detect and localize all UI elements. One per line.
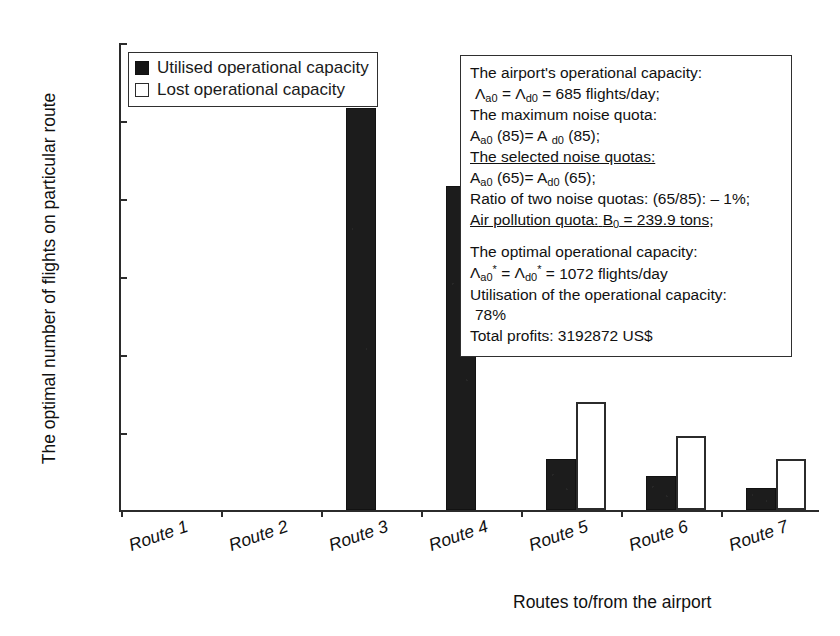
max-noise-quota-a: (85): [497, 127, 525, 144]
legend-label-lost: Lost operational capacity: [157, 80, 345, 100]
info-line-max-noise-quota-value: Aa0 (85)= A d0 (85);: [470, 126, 782, 147]
info-line-air-pollution: Air pollution quota: B0 = 239.9 tons;: [470, 210, 782, 231]
lambda-a0-symbol: Λa0: [475, 85, 498, 102]
info-box: The airport's operational capacity: Λa0 …: [460, 55, 792, 357]
selected-noise-quota-a: (65): [497, 169, 525, 186]
legend-swatch-filled-icon: [135, 61, 149, 75]
A-a0-symbol-2: Aa0: [470, 169, 493, 186]
selected-noise-quota-d: (65): [564, 169, 592, 186]
x-tick-label: Route 2: [226, 516, 291, 556]
legend-item-lost: Lost operational capacity: [135, 79, 369, 101]
lambda-d0-star-symbol: Λd0*: [515, 264, 542, 281]
info-line-utilisation-label: Utilisation of the operational capacity:: [470, 285, 782, 306]
x-tick-mark: [121, 510, 123, 517]
bar-utilised: [346, 108, 376, 510]
max-noise-quota-d: (85): [568, 127, 596, 144]
bar-lost: [676, 436, 706, 510]
info-line-ratio: Ratio of two noise quotas: (65/85): – 1%…: [470, 189, 782, 210]
lambda-a0-star-symbol: Λa0*: [470, 264, 497, 281]
x-tick-mark: [421, 510, 423, 517]
x-tick-mark: [321, 510, 323, 517]
info-line-selected-noise-quotas-value: Aa0 (65)= Ad0 (65);: [470, 168, 782, 189]
A-d0-symbol-2: Ad0: [537, 169, 560, 186]
bar-group: [221, 44, 321, 510]
bar-lost: [576, 402, 606, 510]
bar-group: [321, 44, 421, 510]
x-tick-label: Route 3: [326, 516, 391, 556]
info-line-operational-capacity-value: Λa0 = Λd0 = 685 flights/day;: [470, 84, 782, 105]
air-pollution-label: Air pollution quota:: [470, 211, 598, 228]
bar-utilised: [746, 488, 776, 510]
y-axis-title: The optimal number of flights on particu…: [39, 44, 60, 514]
bar-utilised: [646, 476, 676, 510]
info-line-max-noise-quota-label: The maximum noise quota:: [470, 105, 782, 126]
x-axis-title: Routes to/from the airport: [513, 592, 711, 613]
info-line-optimal-capacity-label: The optimal operational capacity:: [470, 242, 782, 263]
legend-label-utilised: Utilised operational capacity: [157, 58, 369, 78]
air-pollution-value: 239.9 tons;: [637, 211, 714, 228]
A-a0-symbol: Aa0: [470, 127, 493, 144]
x-tick-mark: [621, 510, 623, 517]
operational-capacity-value: 685 flights/day;: [556, 85, 660, 102]
x-tick-label: Route 7: [726, 516, 791, 556]
info-line-total-profits: Total profits: 3192872 US$: [470, 326, 782, 347]
x-tick-mark: [521, 510, 523, 517]
x-tick-label: Route 5: [526, 516, 591, 556]
info-line-optimal-capacity-value: Λa0* = Λd0* = 1072 flights/day: [470, 263, 782, 285]
B0-symbol: B0: [603, 211, 619, 228]
x-tick-mark: [221, 510, 223, 517]
optimal-capacity-value: 1072 flights/day: [559, 264, 668, 281]
A-d0-symbol: A d0: [537, 127, 564, 144]
legend-swatch-hollow-icon: [135, 83, 149, 97]
bar-chart: The optimal number of flights on particu…: [0, 0, 840, 636]
info-spacer: [470, 231, 782, 242]
bar-lost: [776, 459, 806, 510]
info-line-selected-noise-quotas-label: The selected noise quotas:: [470, 147, 782, 168]
x-tick-mark: [721, 510, 723, 517]
lambda-d0-symbol: Λd0: [515, 85, 538, 102]
x-tick-label: Route 1: [126, 516, 191, 556]
legend: Utilised operational capacity Lost opera…: [128, 52, 378, 107]
x-tick-label: Route 6: [626, 516, 691, 556]
info-line-operational-capacity-label: The airport's operational capacity:: [470, 63, 782, 84]
bar-group: [121, 44, 221, 510]
info-line-utilisation-value: 78%: [470, 305, 782, 326]
bar-utilised: [546, 459, 576, 510]
legend-item-utilised: Utilised operational capacity: [135, 57, 369, 79]
x-tick-label: Route 4: [426, 516, 491, 556]
